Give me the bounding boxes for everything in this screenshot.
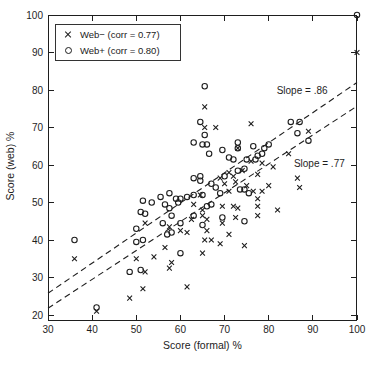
- y-tick-label: 60: [32, 160, 44, 171]
- x-tick-label: 80: [263, 324, 275, 335]
- scatter-point-web-minus: [260, 189, 265, 194]
- scatter-point-web-minus: [231, 174, 236, 179]
- scatter-point-web-minus: [205, 228, 210, 233]
- scatter-point-web-minus: [72, 256, 77, 261]
- scatter-point-web-minus: [266, 183, 271, 188]
- scatter-point-web-plus: [127, 269, 132, 274]
- scatter-point-web-plus: [220, 147, 225, 152]
- scatter-point-web-minus: [167, 266, 172, 271]
- y-tick-label: 90: [32, 47, 44, 58]
- scatter-point-web-minus: [227, 170, 232, 175]
- trend-line-web-plus-fit: [48, 83, 357, 294]
- y-tick-label: 40: [32, 235, 44, 246]
- legend-entry-web-plus: Web+ (corr = 0.80): [62, 44, 176, 58]
- scatter-point-web-minus: [286, 151, 291, 156]
- scatter-point-web-plus: [202, 84, 207, 89]
- scatter-point-web-minus: [242, 243, 247, 248]
- x-tick-label: 50: [131, 324, 143, 335]
- scatter-point-web-plus: [200, 222, 205, 227]
- scatter-point-web-plus: [134, 239, 139, 244]
- scatter-point-web-minus: [233, 179, 238, 184]
- scatter-point-web-minus: [220, 221, 225, 226]
- scatter-point-web-minus: [275, 208, 280, 213]
- x-tick-label: 90: [307, 324, 319, 335]
- scatter-point-web-plus: [288, 119, 293, 124]
- scatter-point-web-plus: [169, 213, 174, 218]
- scatter-point-web-minus: [235, 206, 240, 211]
- scatter-point-web-minus: [295, 176, 300, 181]
- scatter-point-web-minus: [178, 228, 183, 233]
- legend-entry-web-minus: Web− (corr = 0.77): [62, 28, 176, 42]
- scatter-point-web-minus: [127, 296, 132, 301]
- scatter-point-web-minus: [209, 238, 214, 243]
- scatter-point-web-minus: [202, 238, 207, 243]
- scatter-point-web-minus: [255, 172, 260, 177]
- circle-marker-icon: [65, 47, 72, 54]
- scatter-point-web-plus: [167, 205, 172, 210]
- y-tick-label: 70: [32, 122, 44, 133]
- scatter-point-web-minus: [134, 256, 139, 261]
- scatter-point-web-plus: [158, 194, 163, 199]
- scatter-point-web-minus: [249, 121, 254, 126]
- scatter-point-web-minus: [260, 161, 265, 166]
- scatter-point-web-minus: [185, 284, 190, 289]
- scatter-point-web-minus: [200, 251, 205, 256]
- scatter-point-web-minus: [271, 164, 276, 169]
- legend-box: Web− (corr = 0.77) Web+ (corr = 0.80): [55, 24, 181, 61]
- scatter-point-web-minus: [202, 104, 207, 109]
- y-tick-label: 30: [32, 272, 44, 283]
- scatter-point-web-plus: [160, 220, 165, 225]
- scatter-point-web-minus: [185, 230, 190, 235]
- scatter-point-web-minus: [255, 196, 260, 201]
- scatter-point-web-minus: [200, 208, 205, 213]
- y-tick-label: 100: [26, 10, 43, 21]
- scatter-point-web-minus: [163, 245, 168, 250]
- scatter-point-web-minus: [222, 181, 227, 186]
- scatter-point-web-minus: [231, 204, 236, 209]
- cross-marker-icon: [64, 31, 72, 39]
- slope-annotation: Slope = .77: [294, 158, 345, 169]
- scatter-point-web-minus: [202, 125, 207, 130]
- scatter-point-web-plus: [191, 175, 196, 180]
- scatter-point-web-plus: [242, 219, 247, 224]
- x-axis-title: Score (formal) %: [48, 339, 357, 351]
- scatter-point-web-plus: [306, 138, 311, 143]
- scatter-point-web-minus: [255, 213, 260, 218]
- legend-label-web-plus: Web+ (corr = 0.80): [80, 44, 160, 58]
- scatter-point-web-minus: [143, 221, 148, 226]
- scatter-point-web-minus: [220, 204, 225, 209]
- x-tick-label: 60: [175, 324, 187, 335]
- scatter-point-web-plus: [140, 237, 145, 242]
- scatter-point-web-minus: [297, 185, 302, 190]
- scatter-point-web-plus: [178, 250, 183, 255]
- scatter-point-web-plus: [235, 140, 240, 145]
- legend-label-web-minus: Web− (corr = 0.77): [80, 28, 160, 42]
- scatter-point-web-minus: [255, 204, 260, 209]
- scatter-point-web-plus: [140, 198, 145, 203]
- scatter-point-web-minus: [233, 215, 238, 220]
- scatter-point-web-plus: [94, 305, 99, 310]
- scatter-point-web-plus: [72, 237, 77, 242]
- scatter-point-web-plus: [202, 132, 207, 137]
- scatter-point-web-minus: [227, 232, 232, 237]
- x-tick-label: 30: [42, 324, 54, 335]
- x-tick-label: 40: [87, 324, 99, 335]
- scatter-point-web-minus: [141, 286, 146, 291]
- x-tick-label: 100: [349, 324, 366, 335]
- scatter-point-web-minus: [213, 125, 218, 130]
- scatter-figure: 304050607080901002030405060708090100Slop…: [0, 0, 376, 369]
- scatter-point-web-plus: [134, 226, 139, 231]
- y-tick-label: 20: [32, 310, 44, 321]
- scatter-point-web-minus: [152, 254, 157, 259]
- scatter-point-web-plus: [235, 168, 240, 173]
- scatter-point-web-minus: [169, 260, 174, 265]
- scatter-point-web-plus: [149, 200, 154, 205]
- scatter-point-web-minus: [200, 213, 205, 218]
- scatter-point-web-plus: [206, 151, 211, 156]
- scatter-point-web-plus: [220, 215, 225, 220]
- scatter-point-web-minus: [191, 202, 196, 207]
- scatter-point-web-plus: [295, 130, 300, 135]
- y-tick-label: 50: [32, 197, 44, 208]
- scatter-point-web-minus: [218, 241, 223, 246]
- scatter-point-web-plus: [191, 140, 196, 145]
